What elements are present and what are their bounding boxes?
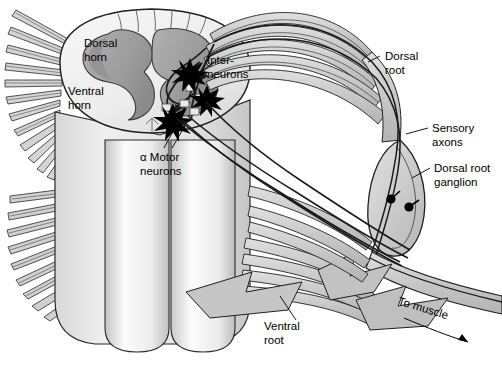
svg-text:Dorsal root: Dorsal root [434, 162, 491, 174]
svg-text:neurons: neurons [207, 68, 249, 80]
svg-text:Dorsal: Dorsal [84, 37, 117, 49]
svg-text:Dorsal: Dorsal [385, 50, 418, 62]
svg-text:root: root [385, 64, 406, 76]
svg-text:horn: horn [84, 51, 107, 63]
svg-text:Ventral: Ventral [68, 85, 104, 97]
svg-text:Ventral: Ventral [264, 320, 300, 332]
svg-text:root: root [264, 334, 285, 346]
spinal-cord-diagram: Dorsal horn Ventral horn Inter- neurons … [0, 0, 502, 372]
svg-text:axons: axons [432, 136, 463, 148]
svg-text:ganglion: ganglion [434, 176, 477, 188]
svg-text:Inter-: Inter- [207, 54, 234, 66]
svg-text:α Motor: α Motor [140, 151, 179, 163]
diagram-canvas: Dorsal horn Ventral horn Inter- neurons … [0, 0, 502, 372]
svg-text:Sensory: Sensory [432, 122, 474, 134]
svg-text:neurons: neurons [140, 165, 182, 177]
svg-text:horn: horn [68, 99, 91, 111]
